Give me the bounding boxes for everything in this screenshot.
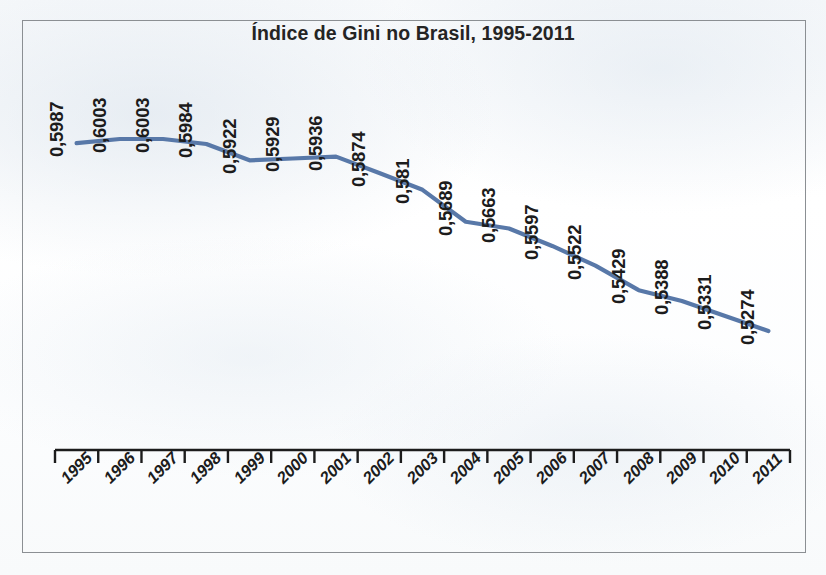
- data-point-label: 0,5331: [694, 275, 716, 330]
- data-point-label: 0,581: [392, 159, 414, 204]
- data-point-label: 0,5936: [305, 115, 327, 170]
- data-point-label: 0,5597: [521, 205, 543, 260]
- data-point-label: 0,6003: [89, 98, 111, 153]
- data-point-label: 0,5522: [564, 224, 586, 279]
- data-point-label: 0,5929: [262, 117, 284, 172]
- data-point-label: 0,5429: [608, 249, 630, 304]
- chart-page: Índice de Gini no Brasil, 1995-2011 0,59…: [0, 0, 826, 575]
- data-point-label: 0,5987: [46, 102, 68, 157]
- data-point-label: 0,5689: [435, 180, 457, 235]
- data-point-label: 0,6003: [132, 98, 154, 153]
- data-point-label: 0,5388: [651, 260, 673, 315]
- data-point-label: 0,5984: [175, 103, 197, 158]
- data-point-label: 0,5274: [737, 290, 759, 345]
- data-point-label: 0,5922: [219, 119, 241, 174]
- data-point-label: 0,5663: [478, 187, 500, 242]
- data-point-label: 0,5874: [348, 132, 370, 187]
